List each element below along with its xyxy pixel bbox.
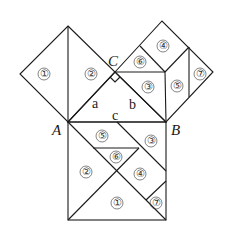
right-angle-marker	[110, 77, 120, 82]
piece-label-left-1: ①	[38, 68, 50, 80]
svg-text:④: ④	[136, 169, 145, 179]
piece-label-right-5: ⑤	[171, 80, 183, 92]
piece-label-bottom-1: ①	[111, 197, 123, 209]
svg-text:⑦: ⑦	[152, 198, 161, 208]
svg-text:①: ①	[40, 69, 49, 79]
vertex-label-c: C	[108, 53, 119, 69]
svg-text:⑤: ⑤	[98, 131, 107, 141]
svg-text:⑥: ⑥	[136, 57, 145, 67]
svg-text:⑦: ⑦	[196, 69, 205, 79]
piece-label-right-3: ③	[142, 81, 154, 93]
piece-label-right-4: ④	[157, 40, 169, 52]
piece-label-bottom-3: ③	[145, 135, 157, 147]
side-label-b: b	[129, 97, 136, 112]
vertex-label-b: B	[171, 122, 180, 138]
piece-label-bottom-5: ⑤	[96, 130, 108, 142]
piece-label-right-6: ⑥	[134, 56, 146, 68]
side-label-a: a	[92, 96, 99, 111]
piece-label-bottom-2: ②	[80, 166, 92, 178]
piece-label-bottom-6: ⑥	[110, 151, 122, 163]
svg-text:②: ②	[82, 167, 91, 177]
svg-text:④: ④	[159, 41, 168, 51]
svg-text:②: ②	[87, 69, 96, 79]
svg-text:③: ③	[147, 136, 156, 146]
piece-label-right-7: ⑦	[194, 68, 206, 80]
piece-label-left-2: ②	[85, 68, 97, 80]
svg-text:⑤: ⑤	[173, 81, 182, 91]
svg-text:③: ③	[144, 82, 153, 92]
svg-text:①: ①	[113, 198, 122, 208]
piece-label-bottom-4: ④	[134, 168, 146, 180]
pythagorean-dissection-diagram: ① ② ⑥ ④ ③ ⑤ ⑦ ⑤ ③ ⑥ ② ④ ① ⑦ A B C a b c	[0, 0, 229, 239]
side-label-c: c	[112, 108, 118, 123]
vertex-label-a: A	[51, 122, 62, 138]
svg-text:⑥: ⑥	[112, 152, 121, 162]
square-on-side-a	[20, 26, 115, 122]
piece-label-bottom-7: ⑦	[150, 197, 162, 209]
piece-labels: ① ② ⑥ ④ ③ ⑤ ⑦ ⑤ ③ ⑥ ② ④ ① ⑦	[38, 40, 206, 209]
